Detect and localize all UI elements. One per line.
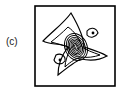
upper-right-dot <box>92 32 95 35</box>
lower-left-dot <box>59 59 62 62</box>
contour-plot <box>34 5 116 87</box>
panel-label: (c) <box>6 36 18 47</box>
